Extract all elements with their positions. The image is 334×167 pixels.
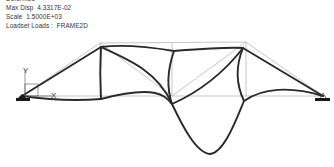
x-axis-label: X <box>51 91 57 100</box>
undeformed-top-chord <box>100 42 246 43</box>
deformed-bottom-chord-3 <box>172 101 244 154</box>
left-support-base <box>16 98 30 101</box>
deformed-shape-plot: Y X <box>0 0 334 167</box>
deformed-bottom-chord-1 <box>22 96 101 100</box>
deformed-bottom-chord-2 <box>101 92 172 104</box>
deformed-vertical-1 <box>100 47 101 99</box>
deformed-top-chord-1 <box>101 46 174 51</box>
deformed-vertical-3 <box>238 48 245 101</box>
coordinate-axes-icon: Y X <box>23 66 57 100</box>
deformed-top-chord-2 <box>174 48 243 51</box>
right-support-base <box>315 98 330 101</box>
undeformed-right-rafter <box>246 42 323 96</box>
deformed-bottom-chord-4 <box>244 90 323 101</box>
deformed-left-rafter <box>22 47 101 96</box>
deformed-structure <box>22 46 323 154</box>
y-axis-label: Y <box>23 66 29 75</box>
